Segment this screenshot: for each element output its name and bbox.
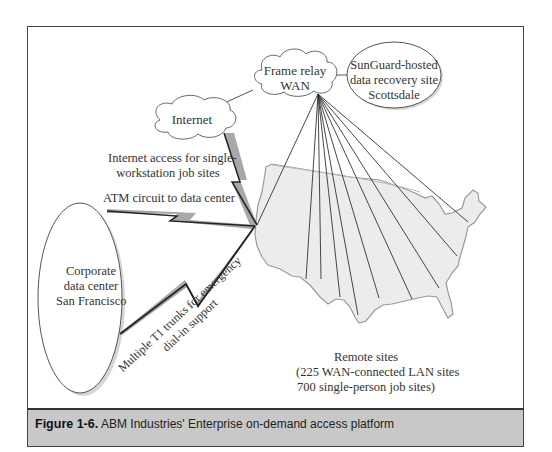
atm-label: ATM circuit to data center [103, 191, 233, 206]
atm-bolt [107, 209, 255, 229]
corporate-label: Corporate data center San Francisco [56, 264, 126, 309]
frame-relay-line1: Frame relay [258, 63, 332, 78]
figure-number: Figure 1-6. [35, 417, 98, 431]
remote-sites-line1: Remote sites [296, 350, 436, 365]
remote-sites-line3: 700 single-person job sites) [296, 380, 436, 395]
sunguard-line2: data recovery site [347, 73, 441, 88]
sunguard-line1: SunGuard-hosted [347, 58, 441, 73]
frame-relay-line2: WAN [258, 78, 332, 93]
internet-access-line2: workstation job sites [108, 166, 228, 181]
figure-caption: ABM Industries' Enterprise on-demand acc… [101, 417, 394, 431]
corporate-line3: San Francisco [56, 294, 126, 309]
internet-bolt [224, 133, 257, 225]
frame-relay-label: Frame relay WAN [258, 63, 332, 93]
internet-access-line1: Internet access for single- [108, 151, 228, 166]
sunguard-label: SunGuard-hosted data recovery site Scott… [347, 58, 441, 103]
internet-access-label: Internet access for single- workstation … [108, 151, 228, 181]
corporate-line2: data center [56, 279, 126, 294]
remote-sites-line2: (225 WAN-connected LAN sites [296, 365, 436, 380]
remote-sites-label: Remote sites (225 WAN-connected LAN site… [296, 350, 436, 395]
sunguard-line3: Scottsdale [347, 88, 441, 103]
corporate-line1: Corporate [56, 264, 126, 279]
us-map [255, 164, 486, 323]
internet-label: Internet [162, 112, 222, 127]
